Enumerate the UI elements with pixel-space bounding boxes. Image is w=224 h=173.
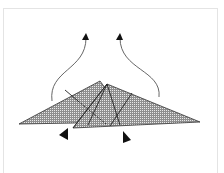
left-push-arrowhead-icon: [59, 128, 68, 140]
right-fold-arrowhead-icon: [116, 33, 123, 40]
origami-diagram: [0, 0, 224, 173]
left-fold-arrowhead-icon: [82, 33, 89, 40]
right-push-arrowhead-icon: [123, 131, 131, 143]
right-fold-arrow: [120, 38, 159, 97]
